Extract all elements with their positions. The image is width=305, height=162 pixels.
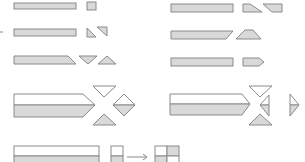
row3-left (14, 56, 116, 64)
two-tone-bar-top (170, 94, 250, 104)
triangle-up-piece (98, 56, 116, 64)
small-block-top (111, 146, 123, 156)
triangle-piece (87, 28, 96, 37)
two-tone-bar-top (14, 94, 95, 105)
trapezoid-piece (263, 4, 282, 12)
two-tone-bar-bottom (14, 105, 95, 117)
triangle-down-piece (79, 56, 97, 64)
triangle-left-top (260, 95, 269, 105)
triangle-left-bottom (260, 105, 269, 116)
slanted-end-bar-piece (14, 56, 76, 64)
trapezoid-piece (243, 4, 262, 12)
quad-block-br (167, 156, 179, 162)
quad-block-tl (155, 146, 167, 156)
row1-right (171, 4, 282, 12)
triangle-top-piece (93, 86, 116, 97)
row2-left (0, 27, 107, 37)
two-tone-bar-top (14, 146, 99, 156)
bar-piece (14, 3, 76, 9)
pointed-piece (243, 58, 264, 66)
triangle-right-top (290, 94, 299, 105)
diamond-bottom (113, 105, 135, 116)
row4-left (14, 86, 135, 125)
row1-left (14, 2, 96, 10)
bar-piece (171, 58, 233, 66)
row4-right (170, 86, 299, 125)
two-tone-bar-bottom (14, 156, 99, 162)
arrow-icon (127, 154, 147, 160)
bar-piece (14, 29, 76, 36)
row5 (14, 146, 179, 162)
quad-block-bl (155, 156, 167, 162)
row3-right (171, 58, 264, 66)
triangle-bottom-piece (93, 114, 116, 125)
row2-right (171, 30, 261, 39)
two-tone-bar-bottom (170, 104, 250, 115)
slanted-bar-piece (171, 31, 233, 39)
triangle-piece (97, 27, 107, 36)
square-piece (87, 2, 96, 10)
bar-cutting-diagram: .p { fill: #d9d9d9; stroke: #8a8a8a; str… (0, 0, 305, 162)
quad-block-tr (167, 146, 179, 156)
diamond-top (113, 94, 135, 105)
trapezoid-up-piece (236, 30, 261, 39)
small-block-bottom (111, 156, 123, 162)
triangle-right-bottom (290, 105, 299, 116)
bar-piece (171, 4, 233, 12)
